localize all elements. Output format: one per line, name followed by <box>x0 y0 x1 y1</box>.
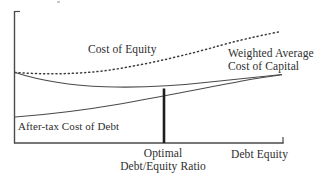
label-wacc-line-1: Weighted Average <box>228 47 314 59</box>
label-optimal-line-2: Debt/Equity Ratio <box>97 160 229 173</box>
label-cost-of-equity: Cost of Equity <box>88 43 157 56</box>
x-axis <box>14 137 284 144</box>
series-weighted-average-cost-of-capital <box>15 73 282 88</box>
label-weighted-average-cost-of-capital: Weighted AverageCost of Capital <box>228 47 314 73</box>
series-after-tax-cost-of-debt <box>15 75 282 117</box>
label-optimal-line-1: Optimal <box>144 147 182 159</box>
label-wacc-line-2: Cost of Capital <box>228 60 314 73</box>
label-x-axis-debt-equity: Debt Equity <box>231 148 288 161</box>
label-after-tax-cost-of-debt: After-tax Cost of Debt <box>18 120 119 132</box>
cost-of-capital-chart: Cost of Equity Weighted AverageCost of C… <box>0 0 330 181</box>
label-optimal-debt-equity-ratio: OptimalDebt/Equity Ratio <box>97 147 229 173</box>
